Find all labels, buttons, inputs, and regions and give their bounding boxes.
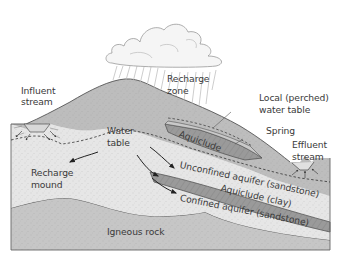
effluent-stream-label-line2: stream bbox=[292, 152, 324, 163]
influent-stream-label-line2: stream bbox=[21, 97, 53, 108]
local-water-table-label-line1: Local (perched) bbox=[259, 93, 329, 104]
groundwater-diagram: Influent stream Recharge zone Local (per… bbox=[0, 0, 343, 262]
igneous-rock-label: Igneous rock bbox=[107, 227, 165, 238]
water-table-label-line1: Water bbox=[107, 126, 134, 137]
spring-label: Spring bbox=[266, 126, 295, 137]
recharge-mound-label-line2: mound bbox=[31, 180, 63, 191]
water-table-label-line2: table bbox=[107, 138, 130, 149]
recharge-zone-label-line1: Recharge bbox=[167, 74, 209, 85]
influent-stream-label-line1: Influent bbox=[21, 86, 55, 97]
recharge-zone-label-line2: zone bbox=[167, 86, 189, 97]
recharge-mound-label-line1: Recharge bbox=[31, 168, 73, 179]
local-water-table-label-line2: water table bbox=[259, 105, 310, 116]
effluent-stream-label-line1: Effluent bbox=[292, 140, 327, 151]
cloud bbox=[106, 24, 222, 67]
